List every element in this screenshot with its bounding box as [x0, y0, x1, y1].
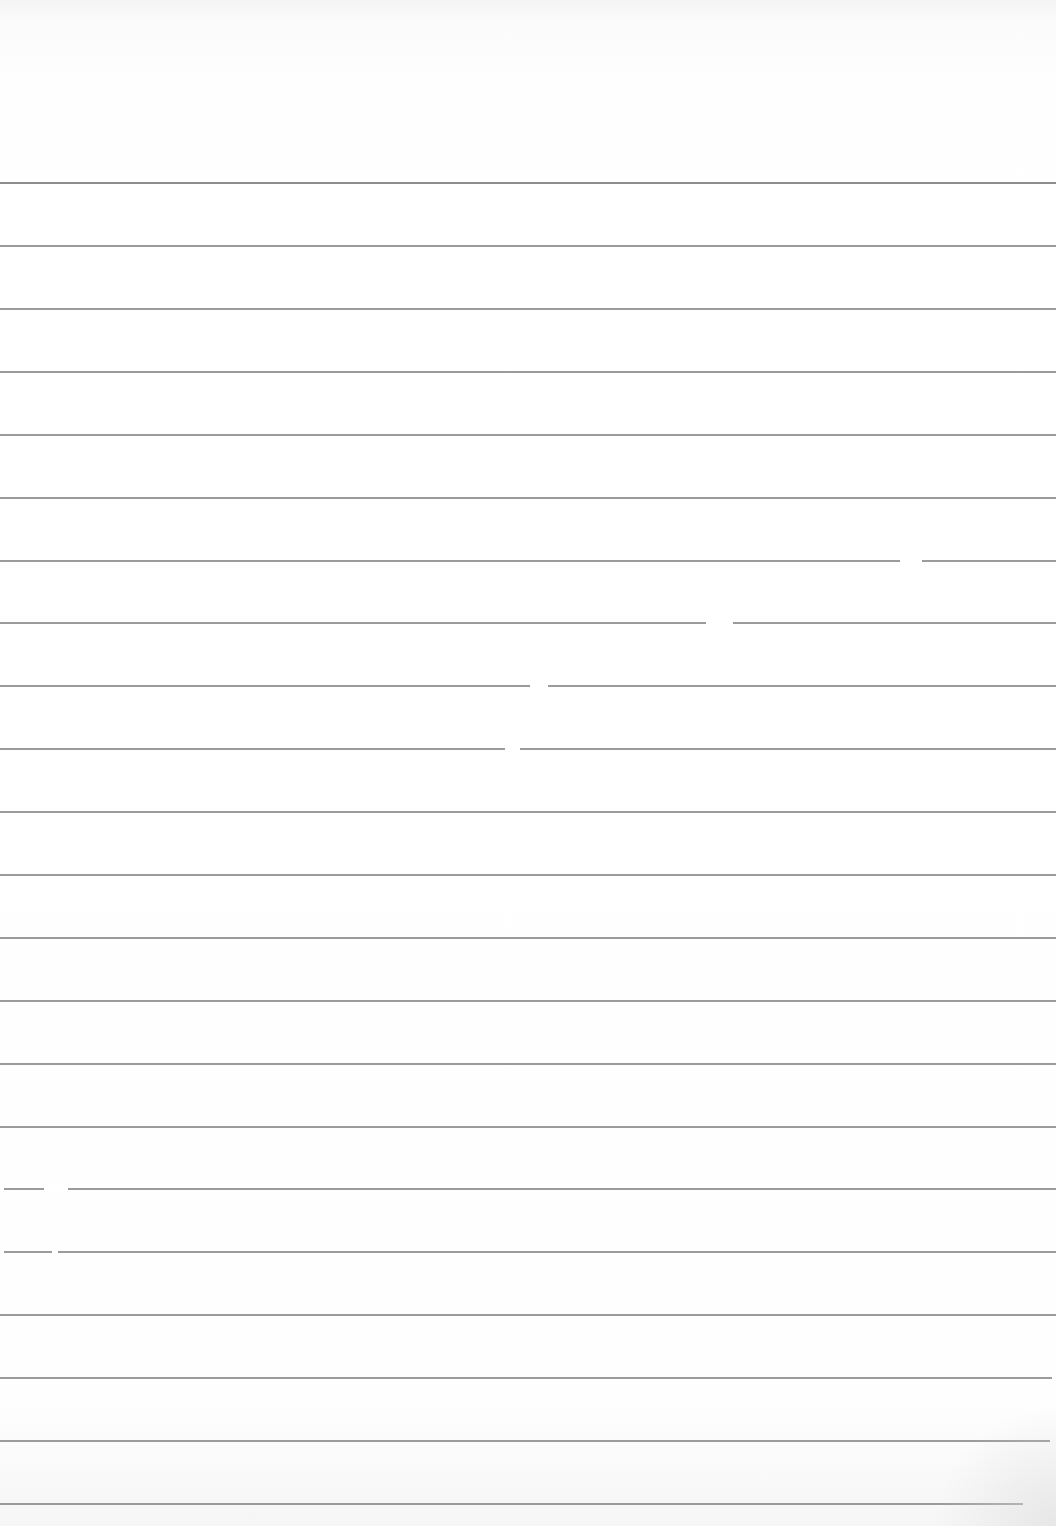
- line-gap: [530, 684, 548, 688]
- line-gap: [706, 621, 733, 625]
- ruled-line: [0, 811, 1056, 813]
- line-gap: [900, 559, 922, 563]
- ruled-line: [0, 1440, 1050, 1442]
- ruled-line: [0, 371, 1056, 373]
- ruled-line: [0, 245, 1056, 247]
- ruled-line: [0, 685, 1056, 687]
- line-gap: [52, 1250, 58, 1254]
- ruled-line: [0, 1377, 1052, 1379]
- ruled-line: [0, 497, 1056, 499]
- line-gap: [44, 1187, 68, 1191]
- ruled-line: [0, 560, 1056, 562]
- ruled-line: [0, 622, 1056, 624]
- ruled-line: [0, 874, 1056, 876]
- ruled-line: [4, 1251, 1056, 1253]
- line-gap: [505, 747, 520, 751]
- ruled-line: [4, 1188, 1056, 1190]
- ruled-line: [0, 748, 1056, 750]
- ruled-line: [0, 182, 1056, 184]
- ruled-line: [0, 1503, 1023, 1505]
- ruled-line: [0, 1000, 1056, 1002]
- ruled-paper-page: [0, 0, 1056, 1526]
- ruled-line: [0, 308, 1056, 310]
- ruled-line: [0, 1063, 1056, 1065]
- ruled-line: [0, 434, 1056, 436]
- ruled-line: [0, 1126, 1056, 1128]
- ruled-line: [0, 1314, 1056, 1316]
- ruled-line: [0, 937, 1056, 939]
